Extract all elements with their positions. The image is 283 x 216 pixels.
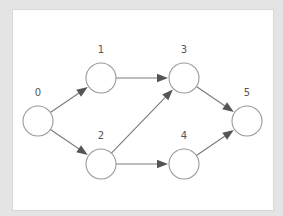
edges-layer xyxy=(50,74,233,168)
edge-1-3 xyxy=(116,74,168,82)
edge-line xyxy=(196,136,224,155)
node-3: 3 xyxy=(169,44,199,93)
edge-line xyxy=(196,86,224,105)
node-label: 1 xyxy=(98,44,104,55)
node-0: 0 xyxy=(23,87,53,136)
node-circle xyxy=(232,106,262,136)
node-label: 5 xyxy=(244,87,250,98)
edge-2-4 xyxy=(116,160,168,168)
arrowhead-icon xyxy=(222,102,233,112)
edge-2-3 xyxy=(111,90,172,154)
node-label: 4 xyxy=(181,130,187,141)
directed-graph: 012345 xyxy=(0,0,283,216)
node-5: 5 xyxy=(232,87,262,136)
edge-0-2 xyxy=(50,129,87,155)
node-label: 3 xyxy=(181,44,187,55)
arrowhead-icon xyxy=(76,87,87,97)
edge-line xyxy=(50,93,78,112)
node-label: 2 xyxy=(98,130,104,141)
node-circle xyxy=(169,149,199,179)
node-4: 4 xyxy=(169,130,199,179)
node-circle xyxy=(86,149,116,179)
edge-3-5 xyxy=(196,86,233,112)
arrowhead-icon xyxy=(157,160,168,168)
node-circle xyxy=(86,63,116,93)
edge-0-1 xyxy=(50,87,87,113)
node-label: 0 xyxy=(35,87,41,98)
edge-line xyxy=(111,97,165,153)
arrowhead-icon xyxy=(222,130,233,140)
nodes-layer: 012345 xyxy=(23,44,262,179)
arrowhead-icon xyxy=(157,74,168,82)
node-circle xyxy=(23,106,53,136)
arrowhead-icon xyxy=(76,145,87,155)
edge-4-5 xyxy=(196,130,233,156)
node-circle xyxy=(169,63,199,93)
edge-line xyxy=(50,129,78,148)
node-2: 2 xyxy=(86,130,116,179)
node-1: 1 xyxy=(86,44,116,93)
